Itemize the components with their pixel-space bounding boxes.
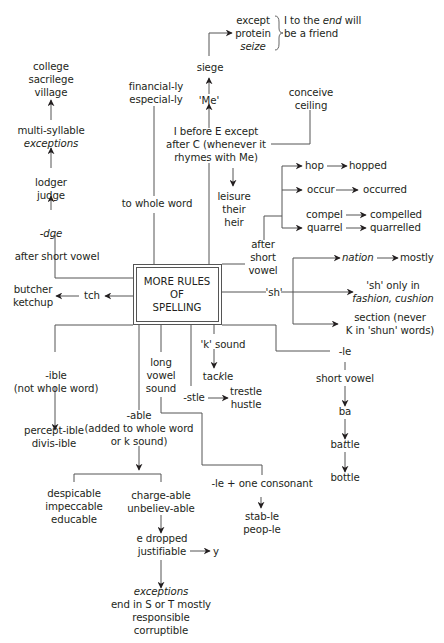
tch-node: tch xyxy=(84,289,100,302)
sh-only-node: 'sh' only in fashion, cushion xyxy=(352,279,433,305)
hopped-node: hopped xyxy=(349,159,387,172)
long-vowel-node: long vowel sound xyxy=(146,356,176,395)
able-node: -able (added to whole word or k sound) xyxy=(85,409,194,448)
e-dropped-node: e dropped justifiable xyxy=(137,532,188,558)
lodger-node: lodger judge xyxy=(35,176,67,202)
trestle-node: trestle hustle xyxy=(230,385,262,411)
butcher-node: butcher ketchup xyxy=(13,283,53,309)
stable-node: stab-le peop-le xyxy=(243,510,281,536)
y-node: y xyxy=(213,545,219,558)
conceive-node: conceive ceiling xyxy=(289,86,334,112)
sh-node: 'sh' xyxy=(266,286,283,299)
hop-node: hop xyxy=(305,159,324,172)
dge-node: -dge xyxy=(40,227,62,240)
after-short-vowel-right: after short vowel xyxy=(248,238,277,277)
bottle-node: bottle xyxy=(330,471,359,484)
compel-node: compel xyxy=(306,208,343,221)
ly-examples: financial-ly especial-ly xyxy=(129,80,183,106)
quarrel-node: quarrel xyxy=(307,221,343,234)
to-whole-word-node: to whole word xyxy=(122,197,193,210)
despicable-node: despicable impeccable educable xyxy=(45,487,103,526)
chargeable-node: charge-able unbeliev-able xyxy=(127,489,195,515)
exceptions-node: exceptions end in S or T mostly responsi… xyxy=(111,585,211,637)
short-vowel-node: short vowel xyxy=(316,372,374,385)
le-node: -le xyxy=(339,345,351,358)
ible-node: -ible (not whole word) xyxy=(14,369,99,395)
ba-node: ba xyxy=(339,405,352,418)
brace-icon xyxy=(275,16,283,50)
after-short-vowel-left: after short vowel xyxy=(15,250,100,263)
ie-rule: I before E except after C (whenever it r… xyxy=(166,125,266,164)
mostly-node: mostly xyxy=(400,251,434,264)
nation-node: nation xyxy=(342,251,374,264)
compelled-node: compelled xyxy=(370,208,422,221)
perceptible-node: percept-ible divis-ible xyxy=(24,424,84,450)
k-sound-node: 'k' sound xyxy=(201,338,246,351)
leisure-node: leisure their heir xyxy=(217,190,250,229)
occurred-node: occurred xyxy=(363,183,407,196)
battle-node: battle xyxy=(330,438,359,451)
occur-node: occur xyxy=(307,183,335,196)
multi-syllable-node: multi-syllable exceptions xyxy=(17,124,84,150)
spelling-rules-diagram: MORE RULES OF SPELLING I before E except… xyxy=(0,0,444,643)
section-node: section (never K in 'shun' words) xyxy=(346,311,435,337)
stle-node: -stle xyxy=(183,391,205,404)
tackle-node: tackle xyxy=(203,370,233,383)
le-one-consonant-node: -le + one consonant xyxy=(211,477,312,490)
siege-node: siege xyxy=(197,61,224,74)
college-node: college sacrilege village xyxy=(28,60,73,99)
me-node: 'Me' xyxy=(199,94,219,107)
quarrelled-node: quarrelled xyxy=(370,221,421,234)
diagram-title: MORE RULES OF SPELLING xyxy=(144,275,211,314)
except-node: except protein seize xyxy=(235,14,271,53)
friend-note: I to the end will be a friend xyxy=(284,14,361,40)
